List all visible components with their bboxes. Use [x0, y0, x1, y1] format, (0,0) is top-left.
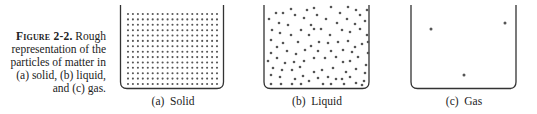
- solid-particle: [211, 83, 213, 85]
- liquid-particle: [320, 28, 323, 31]
- liquid-particle: [349, 31, 352, 34]
- liquid-particle: [302, 75, 305, 78]
- gas-particles: [430, 22, 507, 77]
- solid-particle: [206, 13, 208, 15]
- solid-particle: [201, 83, 203, 85]
- liquid-particle: [291, 69, 294, 72]
- solid-particle: [216, 40, 218, 42]
- solid-particle: [176, 83, 178, 85]
- solid-particle: [152, 72, 154, 74]
- liquid-particle: [270, 83, 273, 86]
- solid-particle: [181, 24, 183, 26]
- solid-particle: [157, 34, 159, 36]
- liquid-particle: [270, 39, 273, 42]
- solid-particle: [176, 34, 178, 36]
- solid-particle: [137, 40, 139, 42]
- liquid-particle: [308, 80, 311, 83]
- liquid-particle: [357, 56, 360, 59]
- liquid-particle: [364, 20, 367, 23]
- solid-particle: [211, 51, 213, 53]
- liquid-particle: [365, 64, 368, 67]
- solid-particle: [147, 67, 149, 69]
- solid-particle: [211, 78, 213, 80]
- solid-particle: [147, 40, 149, 42]
- solid-particle: [132, 56, 134, 58]
- solid-particle: [216, 78, 218, 80]
- solid-particle: [157, 40, 159, 42]
- solid-particle: [186, 61, 188, 63]
- solid-particle: [201, 40, 203, 42]
- solid-particle: [147, 78, 149, 80]
- solid-particle: [167, 24, 169, 26]
- liquid-particle: [279, 32, 282, 35]
- liquid-particle: [271, 29, 274, 32]
- solid-particle: [127, 61, 129, 63]
- solid-particle: [167, 61, 169, 63]
- liquid-particle: [294, 14, 297, 17]
- solid-particle: [142, 61, 144, 63]
- solid-particle: [186, 34, 188, 36]
- liquid-particle: [329, 34, 332, 37]
- solid-particle: [127, 18, 129, 20]
- solid-particle: [162, 29, 164, 31]
- solid-particle: [191, 24, 193, 26]
- solid-particle: [167, 45, 169, 47]
- solid-particle: [206, 29, 208, 31]
- solid-particle: [127, 67, 129, 69]
- solid-particle: [127, 72, 129, 74]
- solid-particle: [147, 29, 149, 31]
- solid-particle: [211, 18, 213, 20]
- liquid-particle: [361, 43, 364, 46]
- solid-particle: [201, 29, 203, 31]
- solid-particle: [137, 24, 139, 26]
- solid-particle: [157, 56, 159, 58]
- liquid-particle: [359, 28, 362, 31]
- solid-particle: [191, 29, 193, 31]
- solid-particle: [132, 13, 134, 15]
- solid-particle: [191, 78, 193, 80]
- solid-particle: [171, 45, 173, 47]
- solid-particle: [162, 67, 164, 69]
- liquid-particle: [332, 67, 335, 70]
- solid-particle: [142, 51, 144, 53]
- solid-particle: [171, 67, 173, 69]
- liquid-particle: [359, 14, 362, 17]
- liquid-particle: [347, 40, 350, 43]
- liquid-particle: [336, 22, 339, 25]
- liquid-particle: [330, 83, 333, 86]
- solid-particle: [167, 29, 169, 31]
- solid-particle: [196, 13, 198, 15]
- solid-particle: [157, 51, 159, 53]
- solid-particle: [201, 56, 203, 58]
- solid-particle: [176, 78, 178, 80]
- solid-particle: [181, 45, 183, 47]
- caption-line-1: Figure 2-2. Rough: [0, 30, 106, 43]
- solid-particle: [132, 34, 134, 36]
- liquid-particle: [313, 57, 316, 60]
- liquid-particle: [299, 66, 302, 69]
- solid-particle: [142, 13, 144, 15]
- solid-particle: [206, 83, 208, 85]
- gas-container-diagram: [407, 0, 521, 95]
- liquid-particle: [282, 12, 285, 15]
- solid-particle: [162, 34, 164, 36]
- liquid-particle: [291, 83, 294, 86]
- liquid-particle: [293, 61, 296, 64]
- liquid-particle: [355, 82, 358, 85]
- liquid-particle: [342, 61, 345, 64]
- liquid-particle: [351, 51, 354, 54]
- solid-particle: [196, 24, 198, 26]
- solid-particle: [191, 61, 193, 63]
- solid-particle: [157, 18, 159, 20]
- liquid-particle: [282, 42, 285, 45]
- solid-particle: [191, 56, 193, 58]
- liquid-particle: [354, 46, 357, 49]
- solid-particle: [147, 56, 149, 58]
- solid-particle: [211, 67, 213, 69]
- solid-particle: [176, 29, 178, 31]
- solid-particle: [216, 83, 218, 85]
- solid-particle: [176, 13, 178, 15]
- solid-particle: [216, 67, 218, 69]
- solid-particle: [167, 34, 169, 36]
- solid-particle: [142, 56, 144, 58]
